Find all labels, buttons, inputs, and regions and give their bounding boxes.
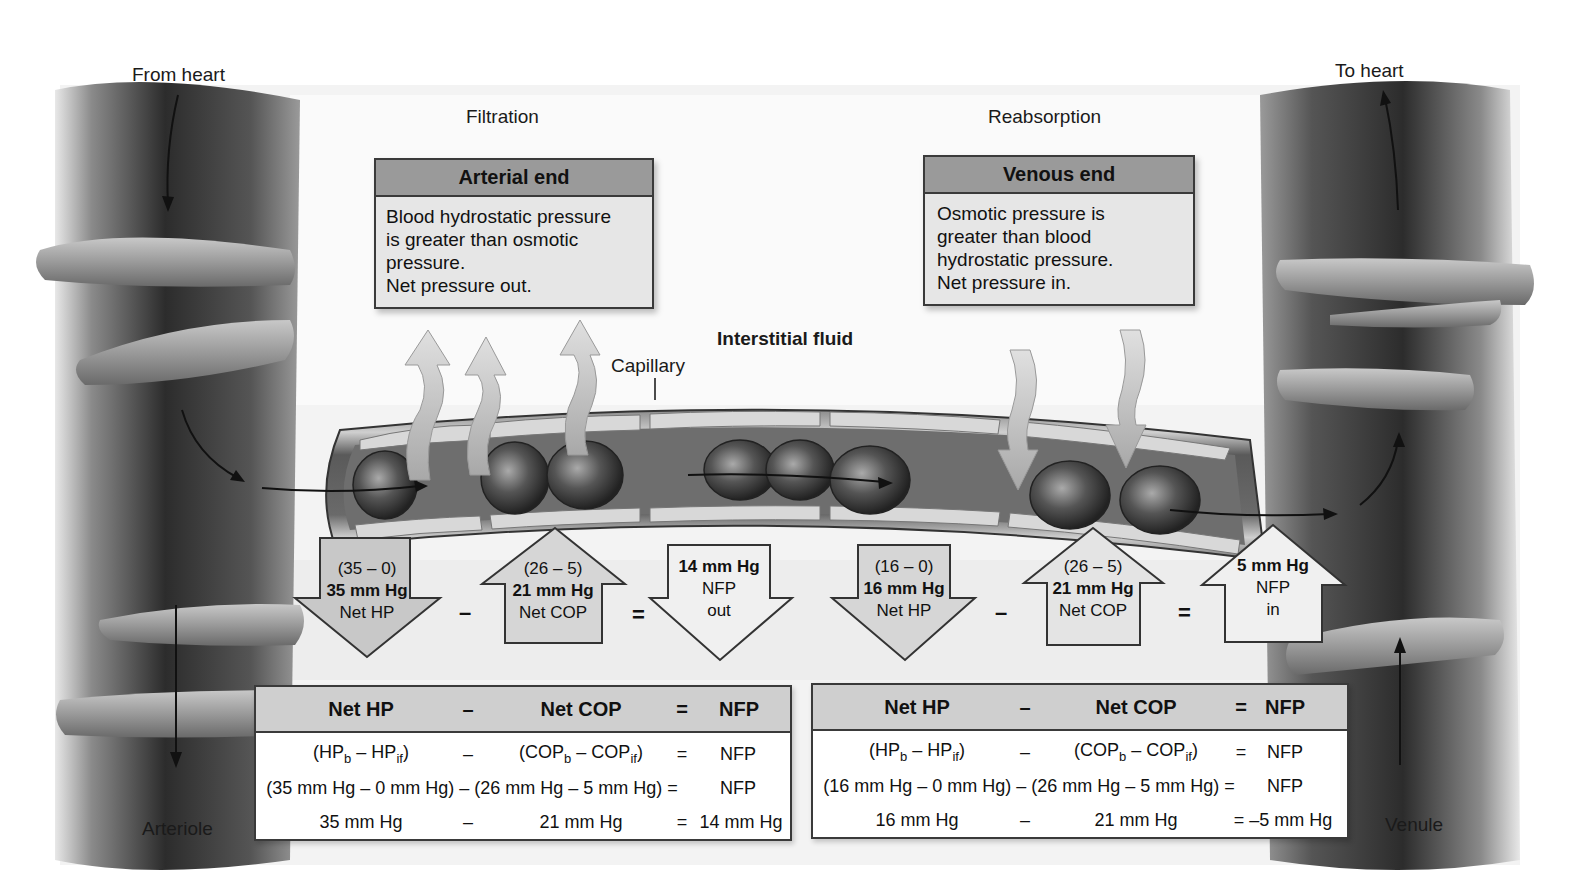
table-header: Net HP – Net COP = NFP: [813, 685, 1347, 731]
arrow-value: 5 mm Hg: [1208, 555, 1338, 577]
arrow-label: Net HP: [839, 600, 969, 622]
nfp: NFP: [1267, 776, 1303, 797]
table-row: (HPb – HPif) – (COPb – COPif) = NFP: [256, 737, 790, 771]
equals: =: [677, 744, 688, 765]
arterial-nfp-out-arrow: 14 mm Hg NFP out: [654, 556, 784, 622]
arrow-direction: out: [654, 600, 784, 622]
minus: –: [463, 744, 473, 765]
table-row: (16 mm Hg – 0 mm Hg) – (26 mm Hg – 5 mm …: [813, 769, 1347, 803]
header-equals: =: [1235, 696, 1247, 719]
arterial-net-hp-arrow: (35 – 0) 35 mm Hg Net HP: [302, 558, 432, 624]
arrow-label: Net COP: [488, 602, 618, 624]
venous-end-title: Venous end: [925, 157, 1193, 194]
net-hp-value: 35 mm Hg: [319, 812, 402, 833]
arrow-label: NFP: [654, 578, 784, 600]
header-net-hp: Net HP: [884, 696, 950, 719]
header-equals: =: [676, 698, 688, 721]
venous-end-line: Osmotic pressure is: [937, 202, 1183, 225]
to-heart-label: To heart: [1335, 60, 1404, 82]
arterial-end-title: Arterial end: [376, 160, 652, 197]
venous-equation-table: Net HP – Net COP = NFP (HPb – HPif) – (C…: [811, 683, 1349, 839]
arrow-value: 16 mm Hg: [839, 578, 969, 600]
nfp: NFP: [720, 778, 756, 799]
nfp: NFP: [1267, 742, 1303, 763]
header-nfp: NFP: [719, 698, 759, 721]
arterial-end-line: Blood hydrostatic pressure: [386, 205, 642, 228]
nfp-value: 14 mm Hg: [699, 812, 782, 833]
arrow-expression: (16 – 0): [839, 556, 969, 578]
header-minus: –: [462, 698, 473, 721]
minus: –: [1020, 810, 1030, 831]
equals: =: [677, 812, 688, 833]
formula-net-cop: (COPb – COPif): [519, 742, 643, 766]
arrow-direction: in: [1208, 599, 1338, 621]
nfp-value: = –5 mm Hg: [1234, 810, 1333, 831]
arrow-label: Net HP: [302, 602, 432, 624]
arrow-value: 21 mm Hg: [1028, 578, 1158, 600]
header-net-hp: Net HP: [328, 698, 394, 721]
table-row: 16 mm Hg – 21 mm Hg = –5 mm Hg: [813, 803, 1347, 837]
arterial-end-line: Net pressure out.: [386, 274, 642, 297]
formula-net-cop: (COPb – COPif): [1074, 740, 1198, 764]
interstitial-fluid-label: Interstitial fluid: [717, 328, 853, 350]
table-row: 35 mm Hg – 21 mm Hg = 14 mm Hg: [256, 805, 790, 839]
venous-nfp-in-arrow: 5 mm Hg NFP in: [1208, 555, 1338, 621]
equals: =: [1236, 742, 1247, 763]
venous-net-hp-arrow: (16 – 0) 16 mm Hg Net HP: [839, 556, 969, 622]
venous-end-box: Venous end Osmotic pressure is greater t…: [923, 155, 1195, 306]
arterial-equation-table: Net HP – Net COP = NFP (HPb – HPif) – (C…: [254, 685, 792, 841]
arterial-end-box: Arterial end Blood hydrostatic pressure …: [374, 158, 654, 309]
equals-operator: =: [632, 602, 645, 628]
capillary-label: Capillary: [611, 355, 685, 377]
minus: –: [463, 812, 473, 833]
substitution: (35 mm Hg – 0 mm Hg) – (26 mm Hg – 5 mm …: [266, 778, 678, 799]
net-hp-value: 16 mm Hg: [875, 810, 958, 831]
arterial-end-line: pressure.: [386, 251, 642, 274]
table-header: Net HP – Net COP = NFP: [256, 687, 790, 733]
equals-operator: =: [1178, 600, 1191, 626]
arrow-value: 35 mm Hg: [302, 580, 432, 602]
arrow-expression: (26 – 5): [488, 558, 618, 580]
table-row: (HPb – HPif) – (COPb – COPif) = NFP: [813, 735, 1347, 769]
nfp: NFP: [720, 744, 756, 765]
net-cop-value: 21 mm Hg: [1094, 810, 1177, 831]
capillary-exchange-diagram: From heart To heart Filtration Reabsorpt…: [0, 0, 1580, 876]
minus-operator: –: [995, 600, 1007, 626]
table-row: (35 mm Hg – 0 mm Hg) – (26 mm Hg – 5 mm …: [256, 771, 790, 805]
venous-end-line: greater than blood: [937, 225, 1183, 248]
arrow-expression: (26 – 5): [1028, 556, 1158, 578]
arterial-end-line: is greater than osmotic: [386, 228, 642, 251]
formula-net-hp: (HPb – HPif): [313, 742, 409, 766]
header-net-cop: Net COP: [540, 698, 621, 721]
net-cop-value: 21 mm Hg: [539, 812, 622, 833]
venous-net-cop-arrow: (26 – 5) 21 mm Hg Net COP: [1028, 556, 1158, 622]
header-net-cop: Net COP: [1095, 696, 1176, 719]
header-minus: –: [1019, 696, 1030, 719]
venule-label: Venule: [1385, 814, 1443, 836]
arrow-label: NFP: [1208, 577, 1338, 599]
arrow-label: Net COP: [1028, 600, 1158, 622]
venous-end-line: hydrostatic pressure.: [937, 248, 1183, 271]
reabsorption-label: Reabsorption: [988, 106, 1101, 128]
arteriole-label: Arteriole: [142, 818, 213, 840]
venous-end-line: Net pressure in.: [937, 271, 1183, 294]
minus: –: [1020, 742, 1030, 763]
minus-operator: –: [459, 600, 471, 626]
arterial-net-cop-arrow: (26 – 5) 21 mm Hg Net COP: [488, 558, 618, 624]
substitution: (16 mm Hg – 0 mm Hg) – (26 mm Hg – 5 mm …: [823, 776, 1235, 797]
arrow-value: 14 mm Hg: [654, 556, 784, 578]
arrow-value: 21 mm Hg: [488, 580, 618, 602]
arrow-expression: (35 – 0): [302, 558, 432, 580]
formula-net-hp: (HPb – HPif): [869, 740, 965, 764]
filtration-label: Filtration: [466, 106, 539, 128]
from-heart-label: From heart: [132, 64, 225, 86]
header-nfp: NFP: [1265, 696, 1305, 719]
